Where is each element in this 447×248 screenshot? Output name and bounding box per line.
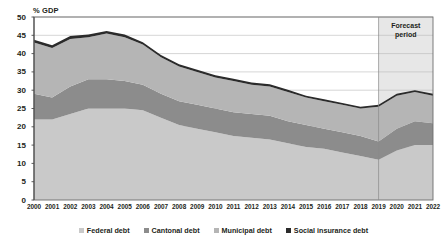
y-tick-label: 40 (2, 49, 26, 58)
y-tick-label: 30 (2, 86, 26, 95)
y-tick-label: 25 (2, 104, 26, 113)
y-tick-label: 10 (2, 159, 26, 168)
y-tick-label: 20 (2, 122, 26, 131)
forecast-label-line2: period (379, 30, 433, 39)
y-tick-label: 45 (2, 31, 26, 40)
legend-item-cantonal-debt[interactable]: Cantonal debt (144, 226, 200, 235)
y-tick-label: 15 (2, 141, 26, 150)
legend-swatch-icon (286, 228, 291, 233)
legend-item-social-insurance-debt[interactable]: Social insurance debt (286, 226, 368, 235)
legend-label: Municipal debt (222, 226, 272, 235)
forecast-period-label: Forecastperiod (379, 21, 433, 39)
legend-label: Federal debt (87, 226, 130, 235)
y-tick-label: 35 (2, 67, 26, 76)
legend-label: Social insurance debt (294, 226, 368, 235)
y-axis-title: % GDP (33, 6, 59, 15)
stacked-area-chart: % GDP 05101520253035404550 2000200120022… (0, 0, 447, 248)
legend-item-federal-debt[interactable]: Federal debt (79, 226, 130, 235)
legend-swatch-icon (214, 228, 219, 233)
chart-legend: Federal debtCantonal debtMunicipal debtS… (0, 226, 447, 235)
forecast-label-line1: Forecast (379, 21, 433, 30)
y-tick-label: 5 (2, 177, 26, 186)
legend-label: Cantonal debt (152, 226, 200, 235)
legend-swatch-icon (79, 228, 84, 233)
y-tick-label: 50 (2, 13, 26, 22)
legend-item-municipal-debt[interactable]: Municipal debt (214, 226, 272, 235)
legend-swatch-icon (144, 228, 149, 233)
x-tick-label: 2022 (422, 203, 444, 210)
